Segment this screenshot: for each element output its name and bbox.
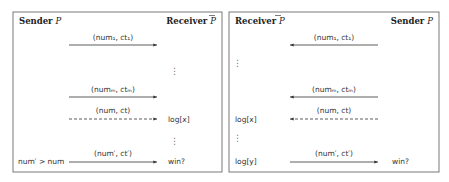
message-label: (numₘ, ctₘ) [91,85,135,94]
ellipsis-vertical: ⋮ [170,136,179,146]
message-label: (num′, ct′) [315,149,353,158]
condition-note: num′ > num [18,157,64,166]
log-x-note: log[x] [168,115,190,124]
right-header-sender: Sender P [391,16,434,26]
svg-text:Receiver P: Receiver P [166,16,216,26]
ellipsis-vertical: ⋮ [233,58,242,68]
left-header-sender: Sender P [19,16,62,26]
message-label: (num₁, ct₁) [314,33,355,42]
message-label: (num, ct) [96,106,131,115]
left-panel: Sender P Receiver P (num₁, ct₁) ⋮ (numₘ,… [13,12,222,172]
svg-text:Receiver P: Receiver P [235,16,285,26]
win-note: win? [168,157,185,166]
message-label: (numₘ, ctₘ) [312,85,356,94]
ellipsis-vertical: ⋮ [233,133,242,143]
message-label: (num₁, ct₁) [93,33,134,42]
right-header-receiver: Receiver P [235,16,285,27]
log-y-note: log[y] [235,157,257,166]
left-header-receiver: Receiver P [166,16,216,27]
log-x-note: log[x] [235,115,257,124]
message-label: (num, ct) [317,106,352,115]
right-panel: Receiver P Sender P (num₁, ct₁) ⋮ (numₘ,… [229,12,439,172]
ellipsis-vertical: ⋮ [170,66,179,76]
message-label: (num′, ct′) [94,149,132,158]
win-note: win? [392,157,409,166]
protocol-diagram: Sender P Receiver P (num₁, ct₁) ⋮ (numₘ,… [0,0,449,182]
